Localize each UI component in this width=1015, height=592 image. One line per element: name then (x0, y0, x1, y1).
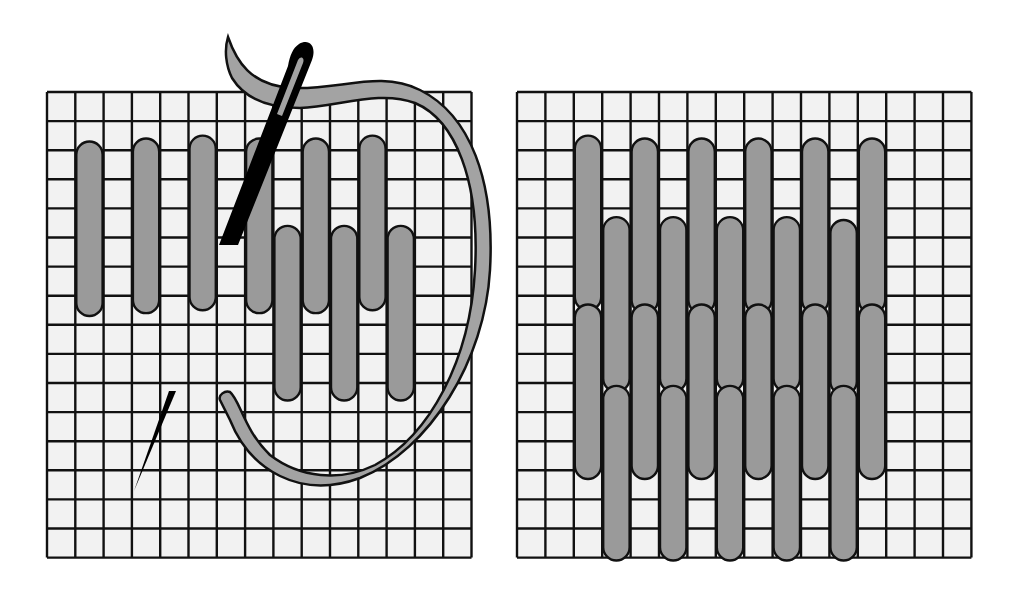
stitch (774, 217, 800, 392)
stitch (802, 304, 828, 479)
stitch (603, 217, 629, 392)
stitch (76, 141, 102, 316)
stitch (830, 220, 856, 395)
stitch (575, 136, 601, 311)
right-panel-finished-pattern (517, 92, 971, 561)
stitch (688, 139, 714, 314)
stitch (575, 304, 601, 479)
stitch (632, 139, 658, 314)
stitch (660, 386, 686, 561)
stitch (274, 226, 300, 401)
stitch (603, 386, 629, 561)
stitch (660, 217, 686, 392)
stitch (859, 304, 885, 479)
stitch (774, 386, 800, 561)
stitch (830, 386, 856, 561)
stitch (190, 136, 216, 311)
stitch (717, 386, 743, 561)
left-panel-stitching-in-progress (47, 37, 491, 558)
stitch (688, 304, 714, 479)
stitch (359, 136, 385, 311)
stitch (632, 304, 658, 479)
stitch (303, 139, 329, 314)
stitch (331, 226, 357, 401)
stitch (745, 304, 771, 479)
needlepoint-diagram (0, 0, 1015, 592)
stitch (388, 226, 414, 401)
stitch (802, 139, 828, 314)
stitch (745, 139, 771, 314)
stitch (717, 217, 743, 392)
stitch (133, 139, 159, 314)
stitch (859, 139, 885, 314)
